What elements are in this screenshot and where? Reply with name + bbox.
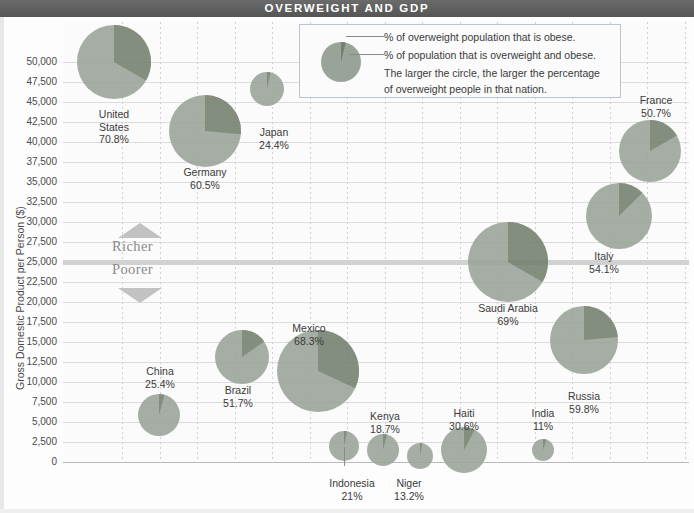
bubble-niger[interactable] bbox=[407, 443, 433, 469]
chart-title-bar: OVERWEIGHT AND GDP bbox=[0, 0, 694, 17]
bubble-label-name: Italy bbox=[544, 250, 664, 263]
bubble-label-value: 54.1% bbox=[544, 263, 664, 276]
y-axis-tick-label: 47,500 bbox=[1, 77, 57, 87]
bubble-label-name: Japan bbox=[214, 126, 334, 139]
y-axis-tick-label: 2,500 bbox=[1, 437, 57, 447]
y-axis-tick-label: 20,000 bbox=[1, 297, 57, 307]
bubble-label-value: 11% bbox=[483, 420, 603, 433]
bubble-label-value: 24.4% bbox=[214, 139, 334, 152]
y-axis-tick-label: 10,000 bbox=[1, 377, 57, 387]
gridline-vertical bbox=[685, 22, 686, 463]
bubble-japan[interactable] bbox=[250, 72, 284, 106]
legend-line-3: The larger the circle, the larger the pe… bbox=[384, 67, 600, 79]
legend-leader-1 bbox=[346, 36, 384, 37]
y-axis-tick-label: 45,000 bbox=[1, 97, 57, 107]
bubble-label-value: 25.4% bbox=[100, 378, 220, 391]
y-axis-tick-label: 22,500 bbox=[1, 277, 57, 287]
y-axis-tick-label: 27,500 bbox=[1, 237, 57, 247]
bubble-label-name: India bbox=[483, 407, 603, 420]
y-axis-tick-label: 30,000 bbox=[1, 217, 57, 227]
chart-root: OVERWEIGHT AND GDP Gross Domestic Produc… bbox=[0, 0, 694, 513]
richer-arrow-icon bbox=[118, 223, 162, 238]
y-axis-tick-label: 0 bbox=[1, 457, 57, 467]
bubble-label-value: 69% bbox=[448, 315, 568, 328]
bubble-label-value: 60.5% bbox=[145, 179, 265, 192]
y-axis-tick-label: 5,000 bbox=[1, 417, 57, 427]
bubble-label-india: India11% bbox=[483, 407, 603, 432]
y-axis-tick-label: 25,000 bbox=[1, 257, 57, 267]
y-axis-tick-label: 7,500 bbox=[1, 397, 57, 407]
y-axis-tick-label: 37,500 bbox=[1, 157, 57, 167]
obese-wedge bbox=[584, 306, 618, 340]
bubble-label-value: 70.8% bbox=[54, 133, 174, 146]
bubble-label-name: Germany bbox=[145, 166, 265, 179]
bubble-label-value: 68.3% bbox=[249, 335, 369, 348]
page-title: OVERWEIGHT AND GDP bbox=[0, 0, 694, 17]
legend-leader-2 bbox=[350, 54, 384, 55]
y-axis-tick-label: 42,500 bbox=[1, 117, 57, 127]
y-axis-tick-label: 12,500 bbox=[1, 357, 57, 367]
bubble-label-name: Russia bbox=[524, 390, 644, 403]
bottom-edge-strip bbox=[0, 509, 694, 513]
bubble-india[interactable] bbox=[532, 439, 554, 461]
legend-line-4: of overweight people in that nation. bbox=[384, 83, 547, 95]
bubble-label-value: 50.7% bbox=[596, 107, 694, 120]
y-axis-tick-label: 50,000 bbox=[1, 57, 57, 67]
bubble-france[interactable] bbox=[619, 120, 681, 182]
gridline bbox=[63, 282, 689, 283]
bubble-china[interactable] bbox=[138, 394, 180, 436]
bubble-label-niger: Niger13.2% bbox=[349, 477, 469, 502]
gridline bbox=[63, 162, 689, 163]
bubble-label-france: France50.7% bbox=[596, 94, 694, 119]
richer-label: Richer bbox=[112, 238, 153, 255]
legend-line-2: % of population that is overweight and o… bbox=[384, 49, 596, 61]
y-axis-tick-label: 35,000 bbox=[1, 177, 57, 187]
y-axis-tick-label: 40,000 bbox=[1, 137, 57, 147]
bubble-label-japan: Japan24.4% bbox=[214, 126, 334, 151]
y-axis-tick-label: 15,000 bbox=[1, 337, 57, 347]
bubble-label-italy: Italy54.1% bbox=[544, 250, 664, 275]
y-axis-tick-label: 17,500 bbox=[1, 317, 57, 327]
bubble-saudi-arabia[interactable] bbox=[468, 222, 548, 302]
bubble-label-name-line2: States bbox=[54, 121, 174, 134]
bubble-label-value: 51.7% bbox=[178, 397, 298, 410]
bubble-label-name: Saudi Arabia bbox=[448, 302, 568, 315]
bubble-label-name: China bbox=[100, 365, 220, 378]
poorer-label: Poorer bbox=[112, 261, 153, 278]
bubble-label-name: Mexico bbox=[249, 322, 369, 335]
bubble-haiti[interactable] bbox=[441, 427, 487, 473]
bubble-label-name: France bbox=[596, 94, 694, 107]
label-leader-line bbox=[344, 447, 345, 466]
bubble-united-states[interactable] bbox=[77, 25, 151, 99]
bubble-label-china: China25.4% bbox=[100, 365, 220, 390]
legend-pie-icon bbox=[320, 41, 362, 83]
bubble-label-germany: Germany60.5% bbox=[145, 166, 265, 191]
bubble-label-united-states: UnitedStates70.8% bbox=[54, 108, 174, 146]
bubble-italy[interactable] bbox=[586, 183, 652, 249]
y-axis-tick-label: 32,500 bbox=[1, 197, 57, 207]
bubble-label-name: United bbox=[54, 108, 174, 121]
bubble-label-value: 13.2% bbox=[349, 490, 469, 503]
legend-line-1: % of overweight population that is obese… bbox=[384, 31, 575, 43]
bubble-kenya[interactable] bbox=[367, 434, 399, 466]
bubble-label-name: Niger bbox=[349, 477, 469, 490]
bubble-label-mexico: Mexico68.3% bbox=[249, 322, 369, 347]
bubble-label-saudi: Saudi Arabia69% bbox=[448, 302, 568, 327]
legend-box: % of overweight population that is obese… bbox=[299, 24, 621, 98]
poorer-arrow-icon bbox=[118, 288, 162, 303]
